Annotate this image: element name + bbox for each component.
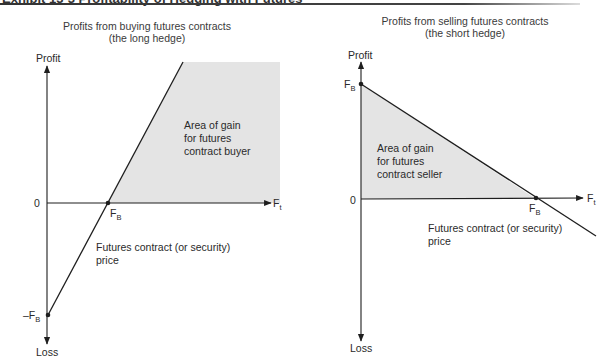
- short-origin-label: 0: [350, 194, 356, 206]
- buyer-area-label-3: contract buyer: [184, 145, 251, 157]
- long-loss-label: Loss: [36, 346, 58, 358]
- long-neg-fb-point: [46, 313, 51, 318]
- short-price-label-2: price: [428, 235, 451, 247]
- short-hedge-subtitle: (the short hedge): [425, 27, 505, 39]
- short-price-label-1: Futures contract (or security): [428, 222, 562, 234]
- long-origin-label: 0: [34, 197, 40, 209]
- long-price-label-1: Futures contract (or security): [96, 241, 230, 253]
- short-profit-label: Profit: [348, 49, 373, 61]
- short-loss-label: Loss: [350, 342, 372, 354]
- long-fb-label: FB: [110, 207, 121, 222]
- long-hedge-panel: Profits from buying futures contracts (t…: [23, 20, 282, 358]
- short-hedge-title: Profits from selling futures contracts: [382, 15, 549, 27]
- long-neg-fb-label: –FB: [23, 309, 40, 324]
- long-price-label-2: price: [96, 254, 119, 266]
- short-fb-x-label: FB: [529, 202, 540, 217]
- long-fb-point: [106, 201, 111, 206]
- short-fb-y-label: FB: [344, 78, 355, 93]
- seller-area-label-2: for futures: [377, 155, 424, 167]
- seller-area-label-3: contract seller: [377, 168, 443, 180]
- long-hedge-title: Profits from buying futures contracts: [63, 20, 231, 32]
- seller-area-label-1: Area of gain: [377, 142, 434, 154]
- long-x-axis-label: Ft: [273, 197, 282, 212]
- long-hedge-subtitle: (the long hedge): [109, 32, 185, 44]
- buyer-area-label-1: Area of gain: [184, 119, 241, 131]
- buyer-area-label-2: for futures: [184, 132, 231, 144]
- short-hedge-panel: Profits from selling futures contracts (…: [344, 15, 596, 354]
- short-fb-x-point: [534, 196, 539, 201]
- hedge-diagram: Profits from buying futures contracts (t…: [0, 0, 616, 364]
- long-profit-label: Profit: [36, 52, 61, 64]
- short-fb-y-point: [359, 82, 364, 87]
- short-x-axis-label: Ft: [587, 192, 596, 207]
